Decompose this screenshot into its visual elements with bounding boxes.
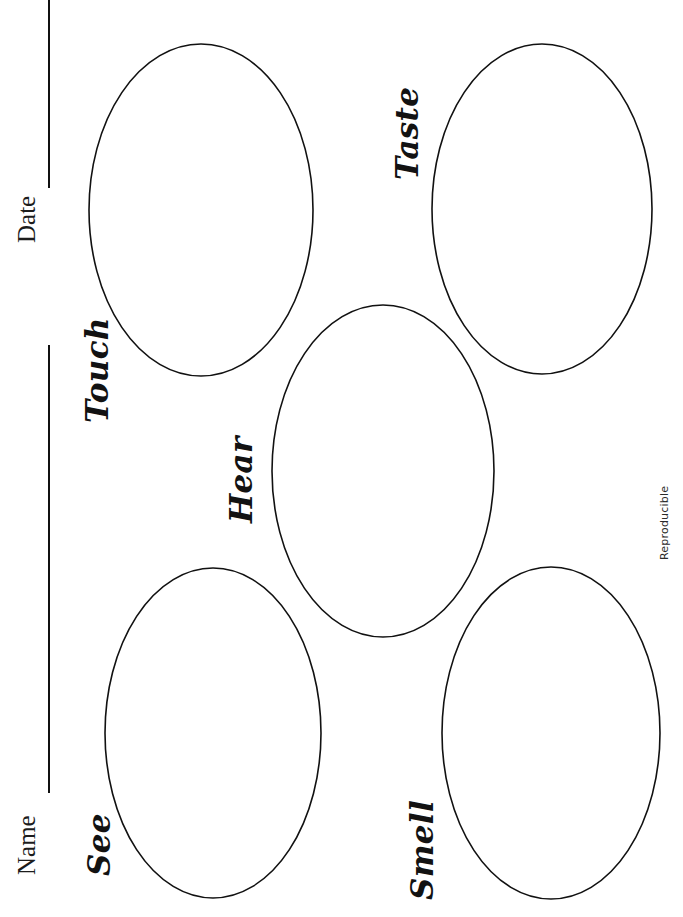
reproducible-note: Reproducible [659, 486, 670, 560]
sense-ellipse-smell[interactable] [442, 567, 660, 899]
sense-label-hear: Hear [226, 436, 257, 523]
worksheet-page: Date Name Touch Taste Hear See Smell Rep… [0, 0, 683, 917]
sense-ellipse-hear[interactable] [272, 305, 494, 637]
date-field-rule[interactable] [48, 0, 50, 188]
sense-ellipse-taste[interactable] [432, 44, 652, 374]
sense-label-see: See [84, 813, 115, 876]
name-field-label: Name [14, 815, 39, 875]
sense-label-touch: Touch [82, 317, 113, 423]
date-field-label: Date [14, 196, 39, 243]
sense-label-taste: Taste [392, 87, 423, 180]
ellipse-layer [0, 0, 683, 917]
name-field-rule[interactable] [48, 345, 50, 793]
sense-ellipse-touch[interactable] [89, 44, 313, 376]
sense-ellipse-see[interactable] [105, 568, 321, 898]
sense-label-smell: Smell [407, 800, 438, 900]
